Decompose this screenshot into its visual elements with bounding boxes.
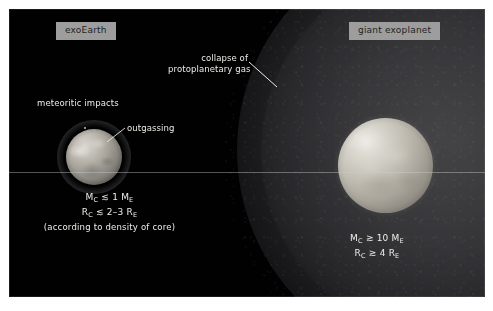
formula-block-exoearth: MC ≲ 1 ME RC ≲ 2–3 RE (according to dens…	[17, 191, 202, 233]
formula-exoearth-mass-symbol: M	[86, 192, 94, 202]
formula-giant-mass: MC ≳ 10 ME	[322, 232, 432, 247]
figure-canvas: exoEarth giant exoplanet meteoritic impa…	[0, 0, 493, 311]
formula-exoearth-radius: RC ≲ 2–3 RE	[17, 206, 202, 221]
formula-block-giant-exoplanet: MC ≳ 10 ME RC ≳ 4 RE	[322, 232, 432, 262]
formula-giant-mass-relation: ≳ 10 M	[363, 233, 400, 243]
annotation-collapse-line-1: collapse of	[168, 53, 248, 64]
exoearth-core-sphere	[66, 129, 122, 185]
label-chip-exoearth: exoEarth	[56, 22, 116, 40]
formula-exoearth-mass-relation: ≲ 1 M	[98, 192, 129, 202]
annotation-collapse-line-2: protoplanetary gas	[168, 64, 248, 75]
formula-exoearth-mass: MC ≲ 1 ME	[17, 191, 202, 206]
exoearth-limb-shading	[66, 129, 122, 185]
formula-giant-radius-relation: ≳ 4 R	[366, 248, 395, 258]
scanline-artifact	[9, 172, 485, 173]
formula-exoearth-radius-relation: ≲ 2–3 R	[93, 207, 133, 217]
formula-giant-radius: RC ≳ 4 RE	[322, 247, 432, 262]
formula-exoearth-note: (according to density of core)	[17, 221, 202, 233]
formula-giant-mass-symbol: M	[350, 233, 358, 243]
annotation-meteoritic-impacts: meteoritic impacts	[37, 98, 119, 109]
label-chip-giant-exoplanet: giant exoplanet	[349, 22, 440, 40]
meteorite-speck	[84, 127, 86, 129]
annotation-collapse-of-protoplanetary-gas: collapse of protoplanetary gas	[168, 53, 248, 75]
formula-exoearth-mass-unit-sub: E	[129, 196, 133, 204]
formula-giant-radius-unit-sub: E	[395, 252, 399, 260]
annotation-outgassing: outgassing	[127, 123, 175, 134]
formula-giant-mass-unit-sub: E	[400, 237, 404, 245]
formula-exoearth-radius-unit-sub: E	[133, 211, 137, 219]
giant-exoplanet-sphere	[338, 118, 433, 213]
giant-exoplanet-limb-shading	[338, 118, 433, 213]
